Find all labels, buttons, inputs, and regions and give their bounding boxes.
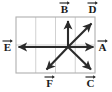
vector-diagram-figure: A B C D xyxy=(0,0,112,92)
vector-label-E-text: E xyxy=(2,42,13,53)
vector-label-E: E xyxy=(2,39,13,53)
vector-C-arrow xyxy=(68,47,91,70)
vector-arrow-overline-A xyxy=(97,39,108,43)
vector-label-D: D xyxy=(87,1,98,15)
vector-arrow-overline-B xyxy=(59,1,70,5)
grid-lines xyxy=(16,17,95,73)
vector-label-A-text: A xyxy=(97,42,108,53)
vector-label-C: C xyxy=(85,75,96,89)
vector-arrow-overline-D xyxy=(87,1,98,5)
vector-arrow-overline-C xyxy=(85,75,96,79)
vector-label-F-text: F xyxy=(44,78,55,89)
vector-D-arrow xyxy=(68,24,92,48)
vector-label-B: B xyxy=(59,1,70,15)
vector-F-arrow xyxy=(47,47,69,70)
vector-label-C-text: C xyxy=(85,78,96,89)
vector-label-A: A xyxy=(97,39,108,53)
vector-label-F: F xyxy=(44,75,55,89)
vector-label-B-text: B xyxy=(59,4,70,15)
vector-label-D-text: D xyxy=(87,4,98,15)
vector-arrow-overline-E xyxy=(2,39,13,43)
vector-arrow-overline-F xyxy=(44,75,55,79)
